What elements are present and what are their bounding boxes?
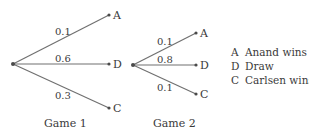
game-2-prob-d: 0.8 <box>157 54 173 65</box>
legend: A Anand wins D Draw C Carlsen wins <box>231 45 309 87</box>
game-1-leaf-label-c: C <box>113 102 121 115</box>
game-1-leaf-node-c <box>107 106 110 109</box>
game-2-tree: 0.1 0.8 0.1 A D C Game 2 <box>131 27 209 130</box>
game-2-leaf-node-c <box>194 92 197 95</box>
game-1-root-node <box>11 62 15 66</box>
legend-label: Draw <box>245 59 274 73</box>
game-1-caption: Game 1 <box>44 117 87 130</box>
game-1-tree: 0.1 0.6 0.3 A D C Game 1 <box>11 9 122 130</box>
game-2-leaf-label-a: A <box>199 27 209 40</box>
game-2-caption: Game 2 <box>153 117 196 130</box>
game-2-leaf-node-d <box>194 63 197 66</box>
game-2-leaf-node-a <box>194 31 197 34</box>
legend-label: Carlsen wins <box>245 73 309 87</box>
game-1-prob-a: 0.1 <box>55 26 71 37</box>
game-2-leaf-label-c: C <box>200 88 208 101</box>
game-2-prob-c: 0.1 <box>157 82 173 93</box>
game-1-prob-c: 0.3 <box>55 90 71 101</box>
legend-row-c: C Carlsen wins <box>231 73 309 87</box>
legend-key: C <box>231 73 245 87</box>
game-2-root-node <box>131 63 135 67</box>
legend-row-a: A Anand wins <box>231 45 309 59</box>
game-2-leaf-label-d: D <box>200 59 209 72</box>
game-1-leaf-node-d <box>107 62 110 65</box>
game-1-leaf-label-d: D <box>113 58 122 71</box>
game-1-branch-c <box>13 64 109 108</box>
game-1-leaf-label-a: A <box>112 9 122 22</box>
legend-label: Anand wins <box>245 45 307 59</box>
legend-key: D <box>231 59 245 73</box>
legend-row-d: D Draw <box>231 59 309 73</box>
game-2-prob-a: 0.1 <box>157 36 173 47</box>
game-1-prob-d: 0.6 <box>55 53 71 64</box>
game-1-leaf-node-a <box>107 13 110 16</box>
legend-key: A <box>231 45 245 59</box>
